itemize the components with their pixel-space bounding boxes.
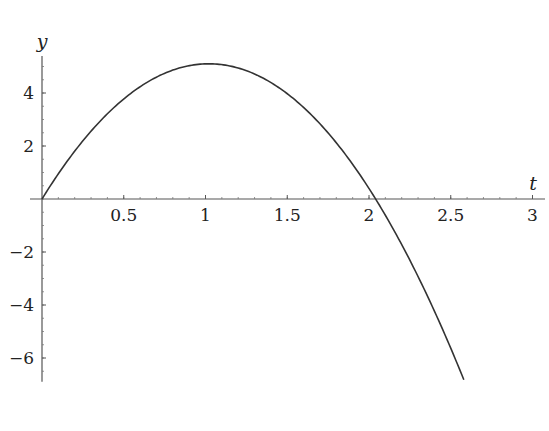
x-tick-label: 3 — [527, 205, 538, 225]
y-tick-labels: −6−4−224 — [9, 83, 34, 368]
x-tick-label: 1.5 — [274, 205, 301, 225]
y-axis-label: y — [36, 30, 48, 52]
x-tick-label: 2.5 — [437, 205, 464, 225]
y-tick-label: −2 — [9, 242, 34, 262]
y-tick-label: −6 — [9, 348, 34, 368]
x-axis-label: t — [529, 172, 537, 194]
x-tick-label: 2 — [364, 205, 375, 225]
line-chart: 0.511.522.53 −6−4−224 t y — [0, 0, 549, 431]
y-tick-label: −4 — [9, 295, 34, 315]
data-series-line — [42, 64, 464, 380]
x-tick-label: 1 — [200, 205, 211, 225]
x-tick-labels: 0.511.522.53 — [110, 205, 538, 225]
y-tick-label: 4 — [23, 83, 34, 103]
major-ticks — [42, 93, 533, 358]
y-tick-label: 2 — [23, 136, 34, 156]
x-tick-label: 0.5 — [110, 205, 137, 225]
